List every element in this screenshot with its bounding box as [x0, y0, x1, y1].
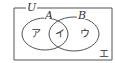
- region-a-only: ア: [31, 28, 41, 39]
- venn-diagram: U A B ア イ ウ エ: [0, 0, 115, 63]
- set-b-label: B: [77, 9, 86, 22]
- region-outside: エ: [99, 48, 109, 59]
- region-b-only: ウ: [80, 28, 90, 39]
- region-a-and-b: イ: [55, 28, 65, 39]
- universe-label: U: [27, 1, 37, 14]
- set-a-label: A: [44, 9, 53, 22]
